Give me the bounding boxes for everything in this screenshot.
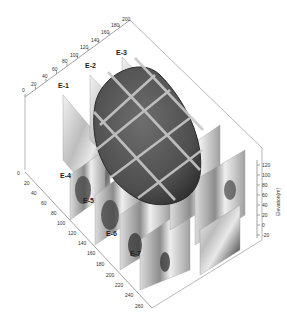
top-tick-140: 140: [91, 37, 100, 43]
section-label-e3: E-3: [116, 49, 127, 56]
section-label-e1: E-1: [58, 82, 69, 89]
left-tick-100: 100: [57, 220, 66, 226]
left-tick-260: 260: [135, 303, 144, 309]
top-tick-120: 120: [80, 44, 89, 50]
section-label-e5: E-5: [83, 197, 94, 204]
left-tick-160: 160: [87, 250, 96, 256]
elev-tick-60: 60: [262, 192, 268, 198]
elev-tick-100: 100: [262, 172, 271, 178]
section-label-e7: E-7: [130, 250, 141, 257]
top-tick-0: 0: [22, 87, 25, 93]
elev-tick-80: 80: [262, 182, 268, 188]
elevation-axis-label: Elevation(m): [275, 188, 281, 216]
left-tick-240: 240: [125, 292, 134, 298]
section-label-e4: E-4: [60, 172, 71, 179]
left-tick-40: 40: [31, 190, 37, 196]
elev-tick-0: 0: [262, 222, 265, 228]
elev-tick-20: 20: [262, 212, 268, 218]
top-tick-60: 60: [52, 66, 58, 72]
left-tick-120: 120: [68, 230, 77, 236]
top-tick-160: 160: [101, 29, 110, 35]
left-tick-200: 200: [106, 272, 115, 278]
elev-tick-neg20: -20: [262, 232, 269, 238]
left-tick-0: 0: [17, 170, 20, 176]
elev-tick-40: 40: [262, 202, 268, 208]
left-tick-80: 80: [51, 210, 57, 216]
elev-tick-120: 120: [262, 162, 271, 168]
elevation-axis: 120 100 80 60 40 20 0 -20 Elevation(m): [257, 160, 281, 238]
top-tick-180: 180: [111, 22, 120, 28]
left-tick-140: 140: [78, 240, 87, 246]
section-label-e6: E-6: [106, 230, 117, 237]
left-tick-20: 20: [24, 180, 30, 186]
top-tick-20: 20: [31, 81, 37, 87]
top-tick-40: 40: [42, 73, 48, 79]
section-label-e2: E-2: [85, 62, 96, 69]
top-tick-200: 200: [122, 16, 131, 22]
left-tick-60: 60: [41, 200, 47, 206]
left-tick-180: 180: [96, 261, 105, 267]
top-tick-80: 80: [62, 58, 68, 64]
top-tick-100: 100: [70, 52, 79, 58]
block-diagram-figure: 0 20 40 60 80 100 120 140 160 180 200 0 …: [0, 0, 287, 327]
left-tick-220: 220: [115, 282, 124, 288]
